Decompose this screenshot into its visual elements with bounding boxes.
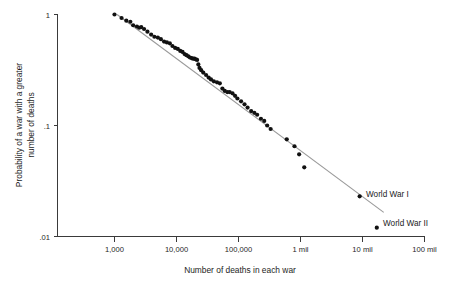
data-point: [297, 152, 301, 156]
x-tick-label-1mil: 1 mil: [292, 245, 308, 254]
y-tick-label-point01: .01: [39, 233, 50, 242]
data-point: [245, 105, 249, 109]
y-axis-title-group: Probability of a war with a greater numb…: [14, 63, 36, 187]
y-tick-label-point1: .1: [44, 122, 50, 131]
data-point: [131, 23, 135, 27]
plot-axes: [54, 15, 425, 242]
power-law-trend-line: [117, 15, 384, 213]
data-point: [255, 113, 259, 117]
annotation-world-war-2: World War II: [383, 219, 428, 228]
y-axis-title-line-1: Probability of a war with a greater: [14, 63, 24, 187]
data-point: [218, 81, 222, 85]
y-axis-title-line-2: number of deaths: [26, 92, 36, 157]
y-tick-label-1: 1: [46, 11, 50, 20]
data-point: [145, 30, 149, 34]
log-log-scatter-chart: 1 .1 .01 1,000 10,000 100,000 1 mil 10 m…: [0, 0, 456, 296]
annotation-world-war-1: World War I: [366, 190, 409, 199]
data-points-group: [112, 12, 378, 229]
data-point: [152, 35, 156, 39]
data-point: [265, 123, 269, 127]
data-point: [124, 19, 128, 23]
x-tick-label-10mil: 10 mil: [352, 245, 373, 254]
data-point: [242, 102, 246, 106]
data-point: [112, 12, 116, 16]
data-point: [302, 165, 306, 169]
data-point: [269, 127, 273, 131]
x-axis-title-group: Number of deaths in each war: [184, 265, 296, 275]
data-point: [358, 194, 362, 198]
y-tick-labels: 1 .1 .01: [39, 11, 50, 242]
data-point: [235, 96, 239, 100]
trend-line-group: [117, 15, 384, 213]
x-tick-label-1000: 1,000: [105, 245, 124, 254]
x-axis-title: Number of deaths in each war: [184, 265, 296, 275]
data-point: [292, 144, 296, 148]
x-tick-label-100000: 100,000: [225, 245, 252, 254]
chart-figure: 1 .1 .01 1,000 10,000 100,000 1 mil 10 m…: [0, 0, 456, 296]
data-point: [195, 58, 199, 62]
data-point: [142, 27, 146, 31]
data-point: [375, 226, 379, 230]
annotations-group: World War I World War II: [366, 190, 428, 228]
x-tick-label-100mil: 100 mil: [412, 245, 437, 254]
y-axis-ticks: [54, 15, 58, 237]
data-point: [262, 119, 266, 123]
x-axis-ticks: [115, 237, 425, 242]
data-point: [285, 137, 289, 141]
x-tick-label-10000: 10,000: [165, 245, 188, 254]
data-point: [128, 20, 132, 24]
data-point: [239, 99, 243, 103]
x-tick-labels: 1,000 10,000 100,000 1 mil 10 mil 100 mi…: [105, 245, 437, 254]
data-point: [119, 16, 123, 20]
